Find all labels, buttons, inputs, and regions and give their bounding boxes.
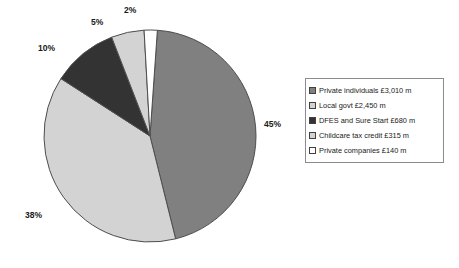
legend-item-label: Private individuals £3,010 m xyxy=(319,86,411,95)
legend-item-label: DFES and Sure Start £680 m xyxy=(319,116,415,125)
legend-item-label: Local govt £2,450 m xyxy=(319,101,386,110)
legend-item-label: Private companies £140 m xyxy=(319,146,407,155)
pie-slice-percent-label: 5% xyxy=(91,17,103,27)
legend-swatch-icon xyxy=(309,132,316,139)
legend-item[interactable]: Private companies £140 m xyxy=(309,143,439,158)
pie-chart-figure: 45%38%10%5%2% Private individuals £3,010… xyxy=(0,0,459,268)
legend-swatch-icon xyxy=(309,102,316,109)
legend-swatch-icon xyxy=(309,117,316,124)
legend-item-label: Childcare tax credit £315 m xyxy=(319,131,409,140)
legend-item[interactable]: Local govt £2,450 m xyxy=(309,98,439,113)
legend-item[interactable]: DFES and Sure Start £680 m xyxy=(309,113,439,128)
legend-swatch-icon xyxy=(309,147,316,154)
pie-slice-percent-label: 38% xyxy=(25,210,42,220)
legend-item[interactable]: Childcare tax credit £315 m xyxy=(309,128,439,143)
legend-item[interactable]: Private individuals £3,010 m xyxy=(309,83,439,98)
pie-slice-percent-label: 45% xyxy=(264,119,281,129)
legend-swatch-icon xyxy=(309,87,316,94)
pie-slice-percent-label: 10% xyxy=(38,43,55,53)
pie-slice-percent-label: 2% xyxy=(124,5,136,15)
chart-legend: Private individuals £3,010 m Local govt … xyxy=(305,78,444,163)
